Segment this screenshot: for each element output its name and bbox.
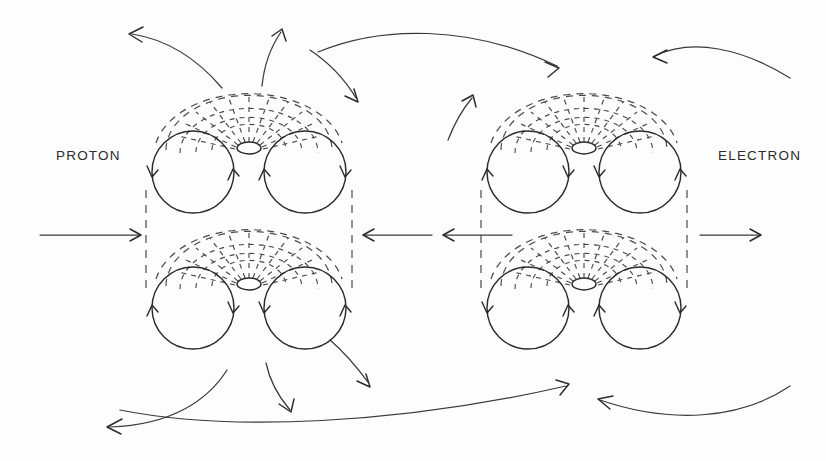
dashed-vertical-lines (146, 190, 687, 292)
field-fan-electron-lower (491, 230, 677, 289)
arc-bottom-center-down (266, 363, 290, 410)
vortex-circle-proton-lower-right (264, 267, 346, 349)
core-ellipse-proton-upper (237, 142, 261, 154)
vortex-circle-electron-lower-right (599, 267, 681, 349)
label-proton: PROTON (56, 148, 121, 163)
cluster-proton-lower (147, 230, 351, 349)
arc-top-right-inward (655, 47, 790, 78)
cluster-proton-upper (147, 94, 351, 213)
arc-top-left-down-right (310, 50, 356, 98)
arc-bottom-left-outward (110, 370, 227, 427)
vortex-circle-proton-upper-right (264, 131, 346, 213)
arc-bottom-right-inward (600, 386, 790, 415)
arc-bottom-long-sweep-right (120, 386, 566, 422)
vortex-circle-proton-upper-left (152, 131, 234, 213)
curved-arrows-top (129, 27, 790, 140)
label-electron: ELECTRON (718, 148, 801, 163)
vortex-circle-proton-lower-left (152, 267, 234, 349)
vortex-circle-electron-upper-right (599, 131, 681, 213)
core-ellipse-electron-lower (572, 278, 596, 290)
arc-top-center-up (262, 32, 281, 86)
vortex-circle-electron-upper-left (487, 131, 569, 213)
vortex-circle-electron-lower-left (487, 267, 569, 349)
vortex-figure (0, 0, 826, 461)
field-fan-proton-upper (156, 94, 342, 153)
diagram-canvas: PROTON ELECTRON (0, 0, 826, 461)
core-ellipse-proton-lower (237, 278, 261, 290)
cluster-electron-upper (482, 94, 686, 213)
arc-top-left-outward (132, 34, 222, 88)
arc-bottom-left-down-right (330, 340, 368, 382)
arrowhead-top-long-sweep-right (545, 62, 559, 77)
field-fan-proton-lower (156, 230, 342, 289)
field-fan-electron-upper (491, 94, 677, 153)
core-ellipse-electron-upper (572, 142, 596, 154)
curved-arrows-bottom (107, 340, 790, 434)
arc-mid-right-up (448, 98, 472, 140)
arrowhead-bottom-right-inward (598, 396, 613, 409)
arc-top-long-sweep-right (318, 33, 557, 66)
straight-flow-arrows (40, 229, 761, 241)
cluster-electron-lower (482, 230, 686, 349)
